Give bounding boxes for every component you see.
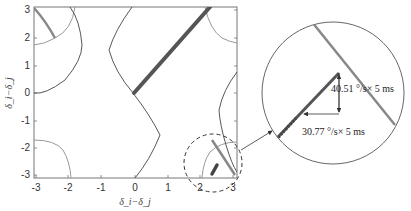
x-axis-label: δ_i−δ_j [119,196,151,207]
figure: -3 -2 -1 0 1 2 3 3 2 1 0 -1 -2 -3 δ_i−δ_… [0,0,411,211]
y-tick-label: -2 [21,142,30,153]
trajectory-bottom-dots [212,165,217,174]
y-tick-label: 1 [24,60,30,71]
x-tick-label: 1 [165,182,171,193]
x-tick-label: -3 [32,182,41,193]
zoom-connector-arrow [241,131,272,150]
y-tick-label: -1 [21,115,30,126]
trajectory-top-left [34,8,55,38]
arc-top-left [34,7,75,45]
boundary-curve-left [34,7,82,93]
arc-bottom-right [202,142,237,178]
y-axis-label: δ_i−δ_j [3,77,14,109]
y-tick-label: 2 [24,32,30,43]
horizontal-component-label: 30.77 °/s× 5 ms [302,126,365,137]
y-tick-label: -3 [21,169,30,180]
trajectory-main [134,7,210,93]
x-tick-label: 0 [132,182,138,193]
vertical-component-label: 40.51 °/s× 5 ms [331,83,394,94]
y-tick-label: 3 [24,4,30,15]
x-tick-label: -2 [64,182,73,193]
boundary-curve-right [219,72,237,172]
x-tick-label: -1 [97,182,106,193]
x-tick-label: 2 [197,182,203,193]
y-tick-label: 0 [24,87,30,98]
arc-top-right [205,7,237,43]
arc-bottom-left [34,140,71,178]
